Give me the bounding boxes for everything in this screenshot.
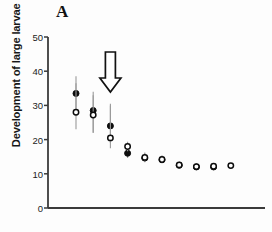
plot-area (0, 0, 272, 232)
data-point-open (108, 135, 113, 140)
data-point-open (194, 164, 199, 169)
data-point-open (159, 157, 164, 162)
data-point-open (211, 164, 216, 169)
down-arrow-icon (100, 52, 121, 92)
data-point-open (177, 162, 182, 167)
data-point-open (228, 163, 233, 168)
figure-panel-a: Development of large larvae (days) A 010… (0, 0, 272, 232)
data-point-open (125, 144, 130, 149)
data-point-open (91, 112, 96, 117)
data-point-open (73, 110, 78, 115)
data-point-open (142, 155, 147, 160)
